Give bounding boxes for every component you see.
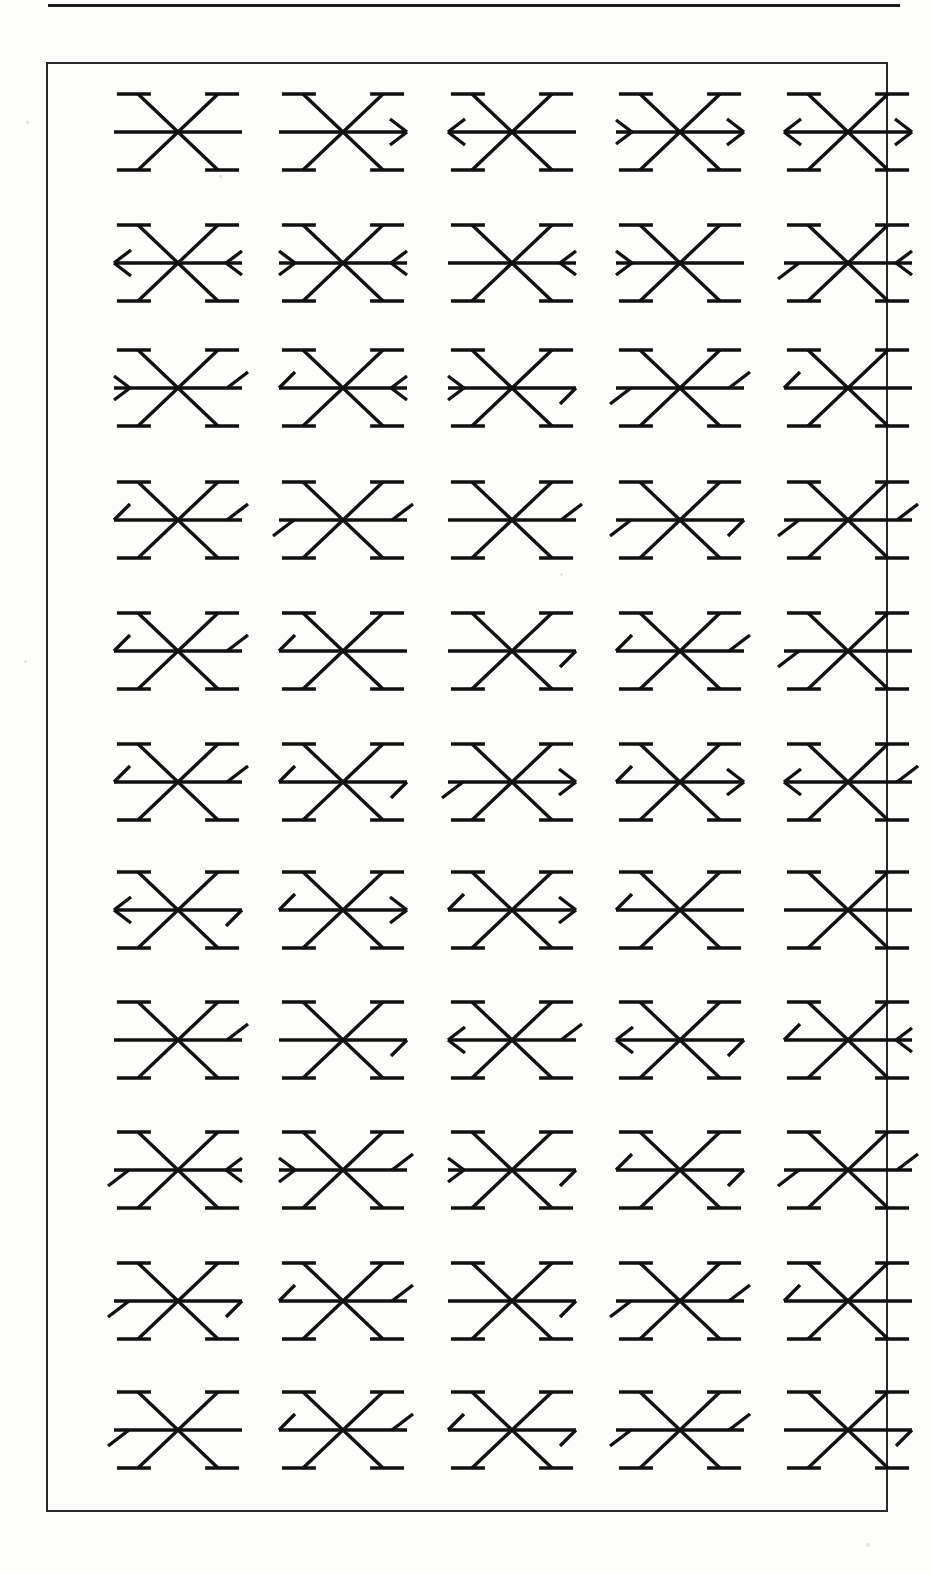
glyph-spokes [279,1132,407,1208]
left-terminal-barb-down [778,263,799,279]
glyph-r4-c5 [768,460,928,580]
glyph-spokes [279,1263,407,1339]
asterisk-glyph [98,850,258,970]
right-terminal-barb-up [392,1285,413,1301]
glyph-spokes [616,1392,744,1468]
left-terminal-barb-down [442,782,463,798]
glyph-spokes [616,1263,744,1339]
asterisk-glyph [98,1110,258,1230]
glyph-r4-c2 [263,460,423,580]
glyph-spokes [784,1263,912,1339]
asterisk-glyph [768,591,928,711]
glyph-spokes [114,872,242,948]
glyph-spokes [279,1002,407,1078]
glyph-spokes [114,1263,242,1339]
left-terminal-hook-up [279,1414,295,1430]
glyph-r8-c5 [768,980,928,1100]
right-terminal-barb-up [392,504,413,520]
right-terminal-hook-down [226,910,242,926]
glyph-r6-c5 [768,722,928,842]
glyph-spokes [448,350,576,426]
left-terminal-hook-up [279,894,295,910]
asterisk-glyph [432,1110,592,1230]
glyph-spokes [279,744,407,820]
asterisk-glyph [768,980,928,1100]
glyph-spokes [448,1392,576,1468]
asterisk-glyph [600,203,760,323]
left-terminal-hook-up [784,372,800,388]
right-terminal-barb-up [227,635,248,651]
glyph-spokes [784,872,912,948]
glyph-spokes [616,1002,744,1078]
glyph-spokes [784,1392,912,1468]
right-terminal-barb-up [227,504,248,520]
glyph-spokes [784,225,912,301]
top-horizontal-rule [48,4,900,7]
glyph-spokes [784,613,912,689]
asterisk-glyph [263,1241,423,1361]
glyph-r10-c1 [98,1241,258,1361]
asterisk-glyph [768,1241,928,1361]
asterisk-glyph [768,1110,928,1230]
glyph-spokes [448,872,576,948]
glyph-r4-c4 [600,460,760,580]
glyph-r3-c5 [768,328,928,448]
right-terminal-hook-down [728,520,744,536]
glyph-spokes [616,225,744,301]
left-terminal-hook-up [114,504,130,520]
right-terminal-hook-down [560,1430,576,1446]
glyph-r11-c3 [432,1370,592,1490]
left-terminal-hook-up [448,1414,464,1430]
glyph-r4-c1 [98,460,258,580]
asterisk-glyph [768,460,928,580]
glyph-r1-c3 [432,72,592,192]
glyph-r11-c1 [98,1370,258,1490]
scan-speckle [26,121,29,124]
glyph-spokes [448,613,576,689]
left-terminal-barb-down [610,1301,631,1317]
right-terminal-hook-down [391,782,407,798]
glyph-r6-c4 [600,722,760,842]
glyph-spokes [114,94,242,170]
left-terminal-barb-down [610,520,631,536]
glyph-r2-c1 [98,203,258,323]
glyph-spokes [114,350,242,426]
glyph-spokes [448,744,576,820]
left-terminal-hook-up [279,372,295,388]
asterisk-glyph [432,203,592,323]
asterisk-glyph [98,72,258,192]
glyph-r9-c1 [98,1110,258,1230]
asterisk-glyph [768,850,928,970]
asterisk-glyph [768,203,928,323]
asterisk-glyph [600,722,760,842]
right-terminal-barb-up [729,372,750,388]
glyph-r10-c5 [768,1241,928,1361]
glyph-spokes [114,482,242,558]
asterisk-glyph [600,850,760,970]
asterisk-glyph [263,591,423,711]
asterisk-glyph [432,591,592,711]
asterisk-glyph [98,1241,258,1361]
glyph-r6-c3 [432,722,592,842]
glyph-r1-c5 [768,72,928,192]
glyph-r10-c4 [600,1241,760,1361]
glyph-r1-c2 [263,72,423,192]
glyph-spokes [448,225,576,301]
glyph-spokes [784,94,912,170]
page-canvas [0,0,931,1574]
glyph-spokes [616,744,744,820]
right-terminal-barb-up [561,1024,582,1040]
right-terminal-barb-up [729,635,750,651]
glyph-r11-c5 [768,1370,928,1490]
left-terminal-hook-up [279,635,295,651]
asterisk-glyph [263,1370,423,1490]
glyph-r5-c2 [263,591,423,711]
glyph-spokes [279,94,407,170]
glyph-r9-c3 [432,1110,592,1230]
asterisk-glyph [98,203,258,323]
glyph-r5-c5 [768,591,928,711]
glyph-spokes [114,1002,242,1078]
right-terminal-hook-down [226,1301,242,1317]
glyph-spokes [448,94,576,170]
right-terminal-barb-up [729,1414,750,1430]
